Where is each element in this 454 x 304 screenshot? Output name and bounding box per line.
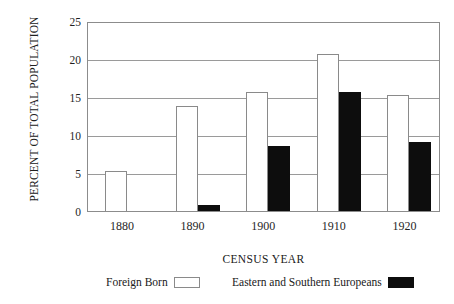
bar-foreign-born-1880 xyxy=(105,171,127,211)
legend-label-foreign-born: Foreign Born xyxy=(106,276,168,288)
bar-foreign-born-1900 xyxy=(246,92,268,211)
y-axis-tick-labels: 25 20 15 10 5 0 xyxy=(47,22,81,212)
hollow-rect-swatch-icon xyxy=(174,277,200,288)
x-axis-title: CENSUS YEAR xyxy=(87,253,440,265)
y-tick-label: 10 xyxy=(47,130,81,142)
y-tick-label: 0 xyxy=(47,206,81,218)
y-tick-label: 25 xyxy=(47,16,81,28)
bar-foreign-born-1890 xyxy=(176,106,198,211)
bar-foreign-born-1910 xyxy=(317,54,339,211)
x-axis-tick-labels: 1880 1890 1900 1910 1920 xyxy=(87,219,440,237)
y-tick-label: 15 xyxy=(47,92,81,104)
bar-eastern-southern-1910 xyxy=(339,92,361,211)
legend-entry-foreign-born: Foreign Born xyxy=(106,276,200,288)
y-tick-label: 5 xyxy=(47,168,81,180)
x-tick-label-1890: 1890 xyxy=(163,219,223,234)
y-tick-label: 20 xyxy=(47,54,81,66)
solid-black-rect-swatch-icon xyxy=(388,277,414,288)
bar-group-1920 xyxy=(370,23,441,211)
bar-group-1910 xyxy=(300,23,371,211)
x-tick-label-1910: 1910 xyxy=(304,219,364,234)
bar-group-1880 xyxy=(88,23,159,211)
legend-label-eastern-southern-europeans: Eastern and Southern Europeans xyxy=(232,276,382,288)
bar-group-1900 xyxy=(229,23,300,211)
y-axis-title: PERCENT OF TOTAL POPULATION xyxy=(28,0,44,219)
x-tick-label-1900: 1900 xyxy=(233,219,293,234)
bar-group-1890 xyxy=(159,23,230,211)
plot-area xyxy=(87,22,440,212)
bar-eastern-southern-1920 xyxy=(409,142,431,211)
bar-foreign-born-1920 xyxy=(387,95,409,211)
bar-chart-figure: PERCENT OF TOTAL POPULATION 25 20 15 10 … xyxy=(0,0,454,304)
bar-eastern-southern-1890 xyxy=(198,205,220,211)
x-tick-label-1920: 1920 xyxy=(374,219,434,234)
x-tick-label-1880: 1880 xyxy=(92,219,152,234)
legend-entry-eastern-southern-europeans: Eastern and Southern Europeans xyxy=(232,276,414,288)
bar-eastern-southern-1900 xyxy=(268,146,290,211)
chart-legend: Foreign Born Eastern and Southern Europe… xyxy=(0,276,454,296)
